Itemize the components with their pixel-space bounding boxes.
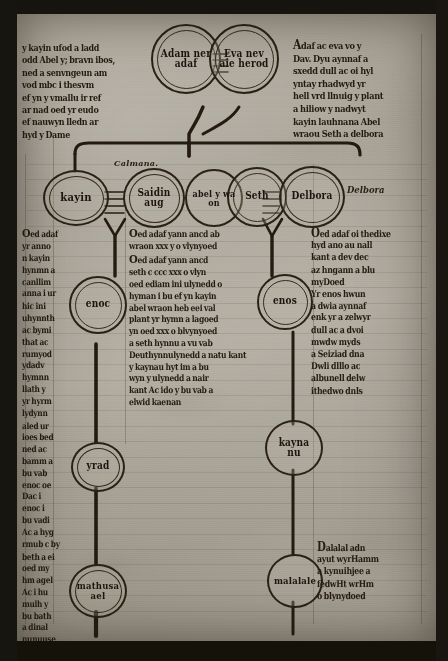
text-line: yn oed xxx o blvynyoed — [129, 326, 253, 338]
text-line: plant yr hymn a lagoed — [129, 314, 253, 326]
medallion-eve[interactable]: Eva nevaie herod — [209, 24, 279, 94]
medallion-enoc[interactable]: enoc — [69, 276, 127, 334]
text-line: ayut wyrHamm — [317, 554, 425, 566]
text-line: Oed adaf yann ancd ab — [129, 228, 253, 241]
medallion-mathusael[interactable]: mathusaael — [69, 564, 127, 618]
text-line: hymnn — [22, 372, 62, 384]
medallion-adam[interactable]: Adam neradaf — [151, 24, 221, 94]
text-line: a Seiziad dna — [311, 349, 423, 361]
medallion-label-line: adaf — [161, 59, 211, 69]
medallion-label-line: aug — [137, 198, 170, 208]
text-line: bu vadi — [22, 515, 62, 527]
medallion-malalael-label: malalale — [271, 576, 319, 586]
medallion-yrad-label: yrad — [84, 462, 113, 472]
text-line: hic ini — [22, 301, 62, 313]
text-line: canllim — [22, 277, 62, 289]
text-line: ac bymi — [22, 324, 62, 336]
text-line: bu bath — [22, 610, 62, 622]
manuscript-page: Adam neradaf Eva nevaie herod Calmana. k… — [0, 0, 448, 661]
text-line: rumyod — [22, 348, 62, 360]
medallion-mathusael-label: mathusaael — [74, 581, 122, 600]
text-line: Ac a hyg — [22, 527, 62, 539]
text-line: hynmn a — [22, 265, 62, 277]
medallion-kaynan[interactable]: kaynanu — [265, 420, 323, 476]
marginalia-delbora: Delbora — [347, 185, 385, 196]
medallion-saidin[interactable]: Saidinaug — [123, 168, 185, 228]
text-line: bu vab — [22, 467, 62, 479]
text-line: myDoed — [311, 277, 423, 289]
text-line: o blynydoed — [317, 591, 425, 603]
text-line: albunell delw — [311, 373, 423, 385]
medallion-cain[interactable]: kayin — [43, 170, 109, 226]
medallion-saidin-label: Saidinaug — [134, 188, 173, 209]
text-line: Dalalal adn — [317, 540, 425, 554]
text-line: a seth hynnu a vu vab — [129, 338, 253, 350]
text-line: wraon xxx y o vlynyoed — [129, 241, 253, 252]
text-block-top-right: Adaf ac eva vo yDav. Dyu aynnaf asxedd d… — [293, 40, 423, 140]
text-line: bamm a — [22, 455, 62, 467]
text-line: Dav. Dyu aynnaf a — [293, 53, 423, 66]
text-block-right-upper: Oed adaf oi thedixehyd ano au nallkant a… — [311, 226, 423, 397]
text-line: y kaynau hyt im a bu — [129, 361, 253, 373]
text-line: y kayin ufod a ladd — [22, 42, 148, 54]
medallion-enoc-label: enoc — [83, 300, 114, 310]
text-line: Oed adaf — [22, 228, 62, 241]
medallion-label-line: on — [193, 198, 236, 207]
text-line: that ac — [22, 336, 62, 348]
text-line: Dwli dlllo ac — [311, 361, 423, 373]
medallion-eve-label: Eva nevaie herod — [216, 49, 271, 70]
text-line: oed my — [22, 563, 62, 575]
text-line: uhynnth — [22, 313, 62, 325]
text-line: aled ur — [22, 420, 62, 432]
medallion-adam-label: Adam neradaf — [158, 49, 214, 70]
text-line: enk yr a zelwyr — [311, 313, 423, 325]
text-line: n kayin — [22, 253, 62, 265]
text-line: Dac i — [22, 491, 62, 503]
medallion-label-line: aie herod — [219, 59, 268, 69]
text-line: fedwHt wrHm — [317, 578, 425, 590]
medallion-cain-label: kayin — [57, 192, 94, 203]
text-block-left-column: Oed adafyr annon kayinhynmn acanllimanna… — [22, 228, 62, 641]
text-line: ithedwo dnls — [311, 385, 423, 397]
text-line: hell vrd llnuig y plant — [293, 90, 423, 103]
text-line: a dwia aynnaf — [311, 301, 423, 313]
text-block-middle-upper: Oed adaf yann ancd abwraon xxx y o vlyny… — [129, 228, 253, 252]
medallion-delbora[interactable]: Delbora — [279, 166, 345, 228]
text-line: kayin lauhnana Abel — [293, 115, 423, 128]
medallion-malalael[interactable]: malalale — [267, 554, 323, 608]
text-line: vod mbc i thesvm — [22, 79, 148, 91]
medallion-label-line: nu — [279, 448, 310, 458]
text-line: mwdw myds — [311, 337, 423, 349]
text-line: dull ac a dvoi — [311, 325, 423, 337]
text-line: kant a dev dec — [311, 252, 423, 264]
photo-frame-top — [0, 0, 448, 14]
photo-frame-right — [436, 0, 448, 661]
marginalia-calmana: Calmana. — [114, 158, 158, 168]
text-line: Ac i hu — [22, 586, 62, 598]
medallion-yrad[interactable]: yrad — [71, 442, 125, 492]
text-line: hyd ano au nall — [311, 240, 423, 252]
text-line: az hngann a blu — [311, 264, 423, 276]
medallion-abel-label: abel y waon — [190, 189, 239, 207]
text-line: ef yn y vmallu ir ref — [22, 91, 148, 103]
text-line: anna i ur — [22, 289, 62, 301]
text-block-top-left: y kayin ufod a laddodd Abel y; bravn ibo… — [22, 42, 148, 140]
text-line: oed ediam ini ulynedd o — [129, 279, 253, 291]
text-line: a hiliow y nadwyt — [293, 103, 423, 116]
text-line: hyman i bu ef yn kayin — [129, 291, 253, 303]
text-line: a dinal — [22, 622, 62, 634]
text-line: mulh y — [22, 598, 62, 610]
text-line: rmub c by — [22, 539, 62, 551]
text-line: abel wraon heb eei val — [129, 302, 253, 314]
medallion-delbora-label: Delbora — [288, 192, 335, 202]
text-block-middle-main: Oed adaf yann ancdseth c ccc xxx o vlyno… — [129, 254, 253, 409]
text-line: seth c ccc xxx o vlyn — [129, 267, 253, 279]
text-line: wraou Seth a delbora — [293, 128, 423, 141]
text-line: kant Ac ido y bu vab a — [129, 385, 253, 397]
text-line: Adaf ac eva vo y — [293, 40, 423, 53]
text-line: ef nauwyn lledn ar — [22, 116, 148, 128]
text-line: nunuuse — [22, 634, 62, 641]
text-block-right-lower: Dalalal adnayut wyrHamma kynuihjee afedw… — [317, 540, 425, 603]
medallion-enos[interactable]: enos — [257, 274, 313, 330]
text-line: yr hyrm — [22, 396, 62, 408]
